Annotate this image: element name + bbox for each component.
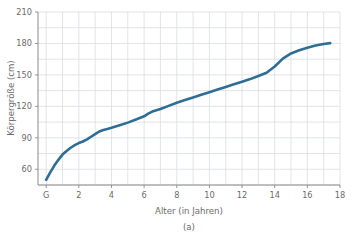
x-axis-title: Alter (in Jahren): [155, 206, 223, 216]
x-tick-label: G: [43, 190, 49, 200]
y-tick-label: 120: [16, 101, 32, 111]
x-tick-label: 12: [237, 190, 247, 200]
y-tick-label: 90: [22, 133, 32, 143]
growth-chart: G24681012141618 6090120150180210 Alter (…: [0, 0, 361, 238]
y-axis-title: Körpergröße (cm): [6, 60, 16, 135]
x-tick-label: 8: [174, 190, 179, 200]
y-tick-label: 180: [16, 38, 32, 48]
y-tick-label: 210: [16, 7, 32, 17]
figure-container: G24681012141618 6090120150180210 Alter (…: [0, 0, 361, 238]
x-tick-label: 4: [109, 190, 114, 200]
x-tick-label: 18: [335, 190, 345, 200]
y-tick-label: 60: [22, 164, 32, 174]
x-tick-label: 2: [76, 190, 81, 200]
y-tick-label: 150: [16, 70, 32, 80]
x-tick-label: 14: [269, 190, 279, 200]
x-tick-label: 10: [204, 190, 214, 200]
x-tick-label: 6: [141, 190, 146, 200]
x-tick-label: 16: [302, 190, 312, 200]
figure-caption: (a): [183, 222, 195, 232]
